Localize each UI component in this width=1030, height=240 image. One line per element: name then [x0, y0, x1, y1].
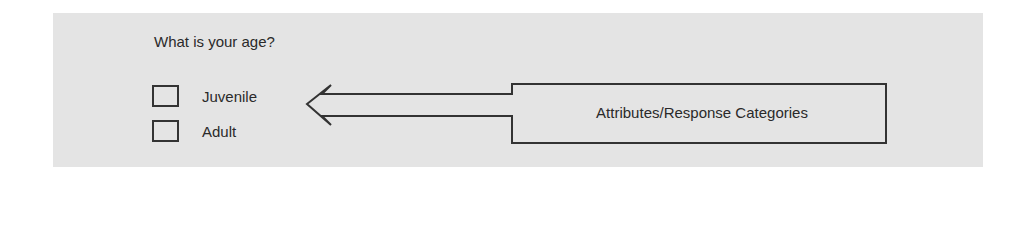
- callout-label: Attributes/Response Categories: [512, 83, 892, 141]
